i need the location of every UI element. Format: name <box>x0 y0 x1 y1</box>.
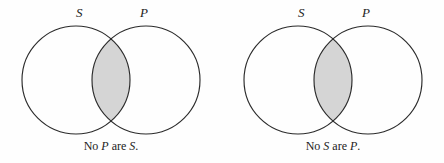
caption-left-period: . <box>135 139 138 153</box>
caption-left: No P are S. <box>0 140 222 153</box>
caption-right-period: . <box>357 139 360 153</box>
caption-left-var1: P <box>101 139 108 153</box>
caption-right-word2: are <box>332 139 347 153</box>
caption-left-word2: are <box>112 139 127 153</box>
venn-diagram-figure: S P No P are S. S P No S are P. <box>0 0 444 163</box>
set-label-s-right: S <box>298 6 305 19</box>
venn-diagram-left: S P No P are S. <box>0 0 222 163</box>
caption-right-word1: No <box>306 139 321 153</box>
caption-left-word1: No <box>84 139 99 153</box>
set-label-p-left: P <box>140 6 148 19</box>
caption-right-var1: S <box>323 139 329 153</box>
set-label-s-left: S <box>76 6 83 19</box>
set-label-p-right: P <box>362 6 370 19</box>
caption-right: No S are P. <box>222 140 444 153</box>
venn-diagram-right: S P No S are P. <box>222 0 444 163</box>
venn-svg-right <box>222 0 444 145</box>
venn-svg-left <box>0 0 222 145</box>
